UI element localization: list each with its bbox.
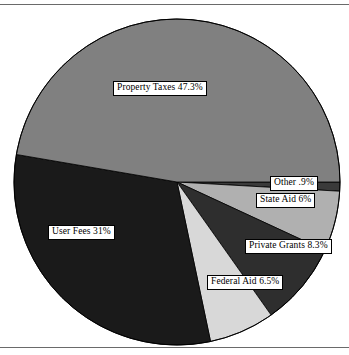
bottom-divider-rule [0, 347, 349, 348]
slice-label-state-aid: State Aid 6% [256, 193, 315, 208]
slice-label-user-fees: User Fees 31% [48, 225, 115, 240]
slice-label-federal-aid: Federal Aid 6.5% [207, 275, 283, 290]
pie-chart-figure: Property Taxes 47.3% Other .9% State Aid… [0, 0, 349, 355]
pie-slice-property-taxes [16, 19, 340, 182]
slice-label-other: Other .9% [270, 176, 318, 191]
slice-label-property-taxes: Property Taxes 47.3% [113, 81, 207, 96]
slice-label-private-grants: Private Grants 8.3% [245, 239, 332, 254]
